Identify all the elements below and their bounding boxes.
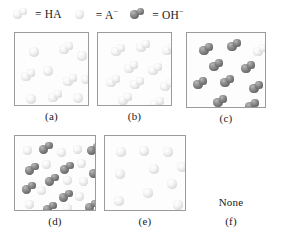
molecule-hydrogen-icon: [136, 77, 144, 85]
none-option-text: None: [196, 196, 266, 208]
molecule-hydrogen-icon: [27, 69, 35, 77]
molecule-hydrogen-icon: [117, 44, 125, 52]
panel-c-caption: (c): [186, 112, 266, 124]
molecule-hydrogen-icon: [66, 162, 73, 169]
legend-entry-ha: = HA: [12, 6, 62, 21]
sphere-pale-icon: [63, 204, 72, 211]
sphere-pale-icon: [37, 186, 46, 195]
panel-f-caption: (f): [196, 215, 266, 227]
legend-entry-hydroxide: = OH−: [129, 6, 184, 21]
panel-b-caption: (b): [97, 110, 172, 122]
panel-d-caption: (d): [14, 215, 96, 227]
molecule-hydrogen-icon: [49, 202, 56, 209]
molecule-hydrogen-icon: [130, 61, 138, 69]
molecule-hydrogen-icon: [28, 182, 35, 189]
sphere-pale-icon: [73, 6, 93, 21]
molecule-hydrogen-icon: [226, 75, 234, 83]
sphere-pale-icon: [167, 179, 177, 189]
legend-label-hydroxide: = OH−: [152, 7, 184, 21]
panel-e[interactable]: [104, 135, 186, 211]
molecule-hydrogen-icon: [219, 95, 227, 103]
sphere-pale-icon: [139, 146, 149, 156]
sphere-pale-icon: [116, 147, 126, 157]
molecule-hydrogen-icon: [31, 163, 38, 170]
legend-entry-a-anion: = A−: [73, 6, 118, 21]
molecule-hydrogen-icon: [65, 42, 73, 50]
molecule-pale-icon: [12, 6, 32, 21]
sphere-pale-icon: [73, 93, 83, 103]
sphere-pale-icon: [115, 169, 125, 179]
panel-c-contents: [187, 33, 265, 107]
molecule-hydrogen-icon: [233, 39, 241, 47]
panel-a[interactable]: [14, 32, 89, 106]
sphere-pale-icon: [177, 162, 186, 172]
molecule-hydrogen-icon: [156, 97, 164, 105]
sphere-pale-icon: [25, 200, 34, 209]
sphere-pale-icon: [29, 47, 39, 57]
sphere-pale-icon: [173, 200, 183, 210]
sphere-pale-icon: [42, 160, 51, 169]
none-option[interactable]: None: [196, 196, 266, 208]
panel-b-contents: [98, 33, 171, 105]
panel-d[interactable]: [14, 135, 96, 211]
molecule-hydrogen-icon: [251, 99, 259, 107]
panel-a-contents: [15, 33, 88, 105]
panel-b[interactable]: [97, 32, 172, 106]
molecule-hydrogen-icon: [215, 59, 223, 67]
molecule-hydrogen-icon: [142, 40, 150, 48]
sphere-pale-icon: [23, 146, 32, 155]
sphere-pale-icon: [77, 159, 86, 168]
legend-label-ha: = HA: [35, 8, 62, 20]
molecule-hydrogen-icon: [54, 90, 62, 98]
molecule-hydrogen-icon: [87, 72, 89, 79]
sphere-pale-icon: [77, 51, 87, 61]
molecule-hydrogen-icon: [259, 44, 266, 52]
sphere-pale-icon: [114, 196, 124, 206]
panel-e-contents: [105, 136, 185, 210]
sphere-pale-icon: [143, 188, 153, 198]
legend: = HA = A− = OH−: [12, 6, 184, 21]
panel-a-caption: (a): [14, 110, 89, 122]
panel-c[interactable]: [186, 32, 266, 108]
sphere-pale-icon: [75, 192, 84, 201]
molecule-hydrogen-icon: [247, 61, 255, 69]
molecule-hydrogen-icon: [255, 81, 263, 89]
molecule-hydrogen-icon: [45, 142, 52, 149]
molecule-hydrogen-icon: [95, 166, 96, 173]
molecule-hydrogen-icon: [112, 75, 120, 83]
molecule-hydrogen-icon: [168, 43, 172, 51]
sphere-pale-icon: [79, 177, 88, 186]
molecule-hydrogen-icon: [93, 143, 96, 150]
molecule-hydrogen-icon: [91, 200, 96, 207]
molecule-hydrogen-icon: [205, 43, 213, 51]
molecule-hydrogen-icon: [65, 190, 72, 197]
sphere-pale-icon: [73, 145, 82, 154]
panel-e-caption: (e): [104, 215, 186, 227]
sphere-pale-icon: [149, 164, 159, 174]
legend-label-a-anion: = A−: [96, 7, 118, 21]
molecule-hydrogen-icon: [154, 63, 162, 71]
molecule-hydrogen-icon: [69, 74, 77, 82]
sphere-pale-icon: [63, 176, 72, 185]
molecule-hydrogen-icon: [199, 77, 207, 85]
molecule-hydrogen-icon: [124, 93, 132, 101]
molecule-dark-icon: [129, 6, 149, 21]
sphere-pale-icon: [43, 66, 53, 76]
sphere-pale-icon: [163, 147, 173, 157]
molecule-hydrogen-icon: [166, 79, 172, 87]
panel-d-contents: [15, 136, 95, 210]
molecule-hydrogen-icon: [51, 174, 58, 181]
sphere-pale-icon: [26, 94, 36, 104]
sphere-pale-icon: [57, 148, 66, 157]
